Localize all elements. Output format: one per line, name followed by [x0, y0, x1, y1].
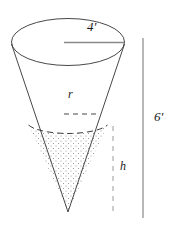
liquid-radius-label: r: [68, 88, 73, 100]
liquid-region: [29, 125, 108, 212]
top-radius-label: 4': [87, 20, 96, 33]
liquid-height-label: h: [120, 160, 126, 172]
total-height-label: 6': [154, 110, 163, 123]
cone-diagram-svg: [0, 0, 172, 231]
cone-figure: 4' r h 6': [0, 0, 172, 231]
